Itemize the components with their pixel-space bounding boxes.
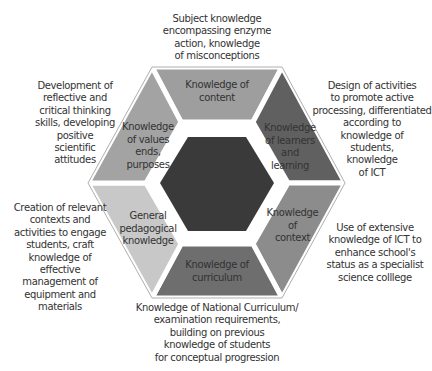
annotation-context: Use of extensive knowledge of ICT to enh…: [318, 222, 432, 284]
segment-label-curriculum: Knowledge of curriculum: [167, 259, 267, 284]
pck-hexagon-diagram: Knowledge of content Knowledge of learne…: [0, 0, 432, 371]
segment-label-pedagogical: General pedagogical knowledge: [108, 210, 188, 248]
annotation-learners: Design of activities to promote active p…: [312, 80, 432, 179]
annotation-content: Subject knowledge encompassing enzyme ac…: [147, 13, 287, 63]
annotation-pedagogical: Creation of relevant contexts and activi…: [5, 202, 115, 314]
annotation-values: Development of reflective and critical t…: [25, 80, 125, 167]
annotation-curriculum: Knowledge of National Curriculum/ examin…: [127, 302, 307, 364]
segment-label-content: Knowledge of content: [167, 79, 267, 104]
